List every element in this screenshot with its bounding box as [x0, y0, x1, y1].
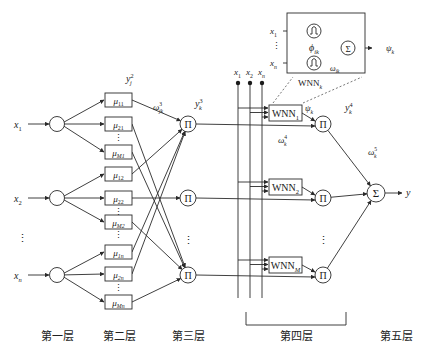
membership-ellipsis: ⋮ [114, 230, 123, 240]
layer1-node [50, 191, 65, 206]
layer5-sum-symbol: Σ [373, 187, 379, 199]
product-to-sum-arrow [327, 201, 371, 269]
bus-input-label-3: xn [257, 67, 265, 79]
layer3-to-product-arrow [196, 124, 315, 126]
bus-input-dot [236, 81, 240, 85]
wavelet-fuzzy-neural-network-diagram: x1x2xn⋮μ11μ21μM1⋮μ12μ22μM2⋮μ1nμ2nμMn⋮⋮y2… [0, 0, 445, 361]
layer-label-2: 第二层 [103, 329, 136, 343]
layer4-product-symbol: Π [319, 270, 326, 281]
inset-leader-line [273, 77, 293, 103]
product-to-sum-arrow [328, 130, 371, 186]
inset-title: WNNk [298, 78, 323, 90]
layer5-weight-label: ω5k [368, 146, 377, 159]
inset-input-label: x1 [269, 26, 277, 38]
layer2-to-layer3-arrow [132, 278, 181, 302]
layer3-to-product-arrow [196, 198, 315, 200]
labels: x1x2xn⋮μ11μ21μM1⋮μ12μ22μM2⋮μ1nμ2nμMn⋮⋮y2… [13, 26, 413, 343]
input-label-3: xn [13, 270, 22, 283]
layer-label-3: 第三层 [172, 329, 205, 343]
layer4-weight-label: ω4k [278, 134, 287, 147]
layer2-output-label: y2j [125, 72, 134, 87]
membership-ellipsis: ⋮ [114, 283, 123, 293]
layer1-to-layer2-arrow [64, 252, 104, 273]
layer4-product-symbol: Π [319, 119, 326, 130]
layer3-product-symbol: Π [184, 270, 191, 281]
layer3-output-label: y3k [194, 97, 203, 112]
layer1-node [50, 117, 65, 132]
layer3-product-symbol: Π [184, 119, 191, 130]
input-ellipsis: ⋮ [17, 232, 28, 244]
layer1-node [50, 268, 65, 283]
bus-input-label-1: x1 [233, 67, 241, 79]
membership-ellipsis: ⋮ [114, 207, 123, 217]
bus-input-dot [248, 81, 252, 85]
membership-ellipsis: ⋮ [114, 133, 123, 143]
layer1-to-layer2-arrow [64, 174, 104, 196]
layer4-product-symbol: Π [319, 193, 326, 204]
layer3-weight-label: ω3jk [153, 101, 164, 114]
layer-label-5: 第五层 [380, 329, 413, 343]
layer2-to-layer3-arrow [132, 152, 185, 268]
inset-output-label: ψk [386, 43, 395, 55]
inset-input-label: xn [269, 58, 277, 70]
inset-input-ellipsis: ⋮ [272, 41, 281, 51]
layer4-output-label: y4k [344, 101, 353, 116]
layer2-to-layer3-arrow [132, 124, 185, 267]
connections [28, 31, 402, 325]
wnn-output-label: ψk [305, 103, 314, 115]
layer3-product-symbol: Π [184, 193, 191, 204]
layer2-to-layer3-arrow [132, 131, 185, 274]
layer4-bracket [246, 312, 346, 325]
layer1-to-layer2-arrow [64, 274, 104, 275]
inset-sum-symbol: Σ [345, 44, 350, 54]
layer1-to-layer2-arrow [64, 277, 104, 302]
product-to-sum-arrow [331, 194, 367, 197]
layer4-ellipsis: ⋮ [318, 234, 329, 246]
layer3-ellipsis: ⋮ [183, 234, 194, 246]
layer2-to-layer3-arrow [132, 129, 182, 174]
nodes [50, 13, 386, 309]
layer1-to-layer2-arrow [64, 200, 104, 222]
layer-label-1: 第一层 [41, 329, 74, 343]
input-label-2: x2 [13, 193, 22, 206]
layer1-to-layer2-arrow [64, 100, 104, 122]
bus-input-label-2: x2 [245, 67, 253, 79]
bus-input-dot [260, 81, 264, 85]
layer1-to-layer2-arrow [64, 126, 104, 152]
layer-label-4: 第四层 [280, 329, 313, 343]
wnn-to-product-arrow [302, 187, 315, 195]
layer3-to-product-arrow [196, 275, 315, 277]
layer2-to-layer3-arrow [132, 131, 185, 252]
input-label-1: x1 [13, 119, 22, 132]
network-output-label: y [405, 187, 411, 198]
wnn-to-product-arrow [302, 265, 315, 272]
